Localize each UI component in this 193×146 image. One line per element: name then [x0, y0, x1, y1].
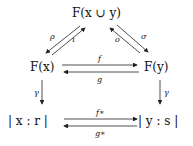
label-f-star: f∗ — [96, 108, 104, 117]
label-f: f — [98, 54, 101, 63]
label-g: g — [97, 75, 102, 84]
label-gamma-left: γ — [34, 88, 39, 97]
label-gamma-right: γ — [164, 88, 169, 97]
node-left: F(x) — [30, 60, 54, 74]
node-bottom-left: | x : r | — [8, 114, 48, 128]
node-top: F(x ∪ y) — [72, 6, 121, 20]
node-bottom-right: | y : s | — [138, 114, 178, 128]
label-g-star: g∗ — [95, 129, 106, 138]
label-sigma: σ — [141, 32, 146, 41]
label-omicron: o — [115, 35, 120, 44]
label-iota: ι — [72, 35, 75, 44]
label-rho: ρ — [50, 32, 55, 41]
node-right: F(y) — [144, 60, 168, 74]
